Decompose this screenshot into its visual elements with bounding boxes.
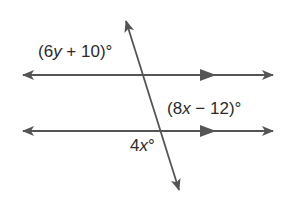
angle-label-top-suffix: + 10)° [62,42,113,61]
angle-label-bottom-suffix: ° [148,136,155,155]
parallel-marker-icon [200,125,216,137]
parallel-lines-diagram [0,0,288,197]
angle-label-top-var: y [53,42,62,61]
parallel-marker-icon [200,69,216,81]
angle-label-right: (8x − 12)° [167,100,241,117]
angle-label-top-prefix: (6 [38,42,53,61]
angle-label-bottom-var: x [139,136,148,155]
angle-label-bottom: 4x° [130,137,155,154]
angle-label-right-var: x [182,99,191,118]
angle-label-top: (6y + 10)° [38,43,112,60]
angle-label-right-suffix: − 12)° [191,99,242,118]
top-parallel-line [23,69,273,81]
angle-label-right-prefix: (8 [167,99,182,118]
